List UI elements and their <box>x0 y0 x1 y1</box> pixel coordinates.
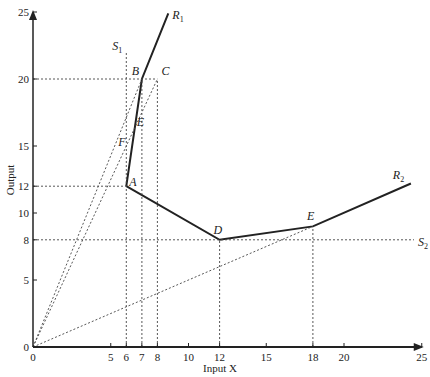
x-axis-label: Input X <box>203 362 237 374</box>
point-label: E <box>136 115 145 129</box>
point-label: E <box>306 209 315 223</box>
y-tick-label: 25 <box>18 6 30 18</box>
point-label: C <box>161 64 170 78</box>
y-tick-label: 10 <box>18 207 30 219</box>
x-tick-label: 25 <box>416 351 428 363</box>
y-tick-label: 0 <box>24 341 30 353</box>
point-label: F <box>117 135 126 149</box>
x-tick-label: 10 <box>183 351 195 363</box>
y-tick-label: 5 <box>24 274 30 286</box>
point-label: R2 <box>392 168 404 184</box>
chart-canvas: 056781012151820250581012152025Input XOut… <box>0 0 430 377</box>
point-label: R1 <box>171 8 183 24</box>
point-label: D <box>213 223 223 237</box>
y-tick-label: 20 <box>18 73 30 85</box>
x-tick-label: 0 <box>30 351 36 363</box>
x-tick-label: 15 <box>261 351 273 363</box>
point-label: S1 <box>112 39 122 55</box>
x-tick-label: 7 <box>139 351 145 363</box>
y-tick-label: 12 <box>18 180 29 192</box>
y-axis-label: Output <box>4 165 16 196</box>
y-tick-label: 15 <box>18 140 30 152</box>
series-ray-oe <box>33 226 313 347</box>
series-r2 <box>126 184 411 240</box>
x-tick-label: 5 <box>108 351 114 363</box>
point-label: S2 <box>418 235 428 251</box>
x-tick-label: 8 <box>155 351 161 363</box>
x-tick-label: 18 <box>307 351 319 363</box>
point-label: A <box>128 175 137 189</box>
y-tick-label: 8 <box>24 234 30 246</box>
x-tick-label: 6 <box>124 351 130 363</box>
production-diagram: 056781012151820250581012152025Input XOut… <box>0 0 430 377</box>
point-label: B <box>132 64 140 78</box>
x-tick-label: 20 <box>339 351 351 363</box>
